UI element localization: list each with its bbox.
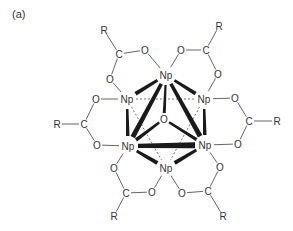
atom-l-o2: O: [93, 140, 101, 151]
atom-np-ul: Np: [121, 94, 134, 105]
atom-np-lr: Np: [199, 140, 212, 151]
thick-bond: [163, 85, 167, 113]
thick-bond: [131, 83, 163, 138]
atom-tr-o1: O: [177, 45, 185, 56]
atom-np-ur: Np: [198, 94, 211, 105]
single-bond: [208, 54, 216, 69]
thick-bond: [138, 142, 195, 148]
atom-bl-o2: O: [148, 187, 156, 198]
atom-br-o2: O: [178, 188, 186, 199]
single-bond: [211, 195, 221, 211]
single-bond: [112, 59, 118, 75]
single-bond: [148, 54, 160, 68]
atom-bl-r: R: [110, 211, 117, 222]
single-bond: [213, 98, 230, 99]
single-bond: [102, 145, 119, 146]
atom-r-o2: O: [234, 139, 242, 150]
atom-tl-c: C: [115, 49, 122, 60]
single-bond: [171, 54, 179, 67]
thick-bond: [203, 109, 207, 135]
atom-np-bot: Np: [160, 163, 173, 174]
single-bond: [214, 144, 233, 145]
single-bond: [240, 126, 247, 140]
atom-tl-o1: O: [141, 45, 149, 56]
single-bond: [86, 104, 94, 120]
panel-label: (a): [12, 8, 25, 20]
atom-l-o1: O: [92, 94, 100, 105]
single-bond: [107, 34, 117, 50]
atom-r-c: C: [245, 116, 252, 127]
neptunium-cluster-diagram: (a) NpNpNpNpNpNpORCOORCOORCOORCOORCOORCO…: [0, 0, 293, 231]
thick-bond: [126, 109, 130, 136]
atom-bl-o1: O: [110, 163, 118, 174]
single-bond: [210, 171, 218, 186]
single-bond: [113, 83, 121, 92]
atom-tl-r: R: [100, 25, 107, 36]
atom-bl-c: C: [122, 188, 129, 199]
thick-bond: [169, 83, 202, 138]
single-bond: [116, 197, 123, 211]
single-bond: [208, 30, 216, 45]
atom-br-o1: O: [216, 162, 224, 173]
atom-tl-o2: O: [106, 74, 114, 85]
atom-np-top: Np: [160, 70, 173, 81]
atom-tr-r: R: [215, 21, 222, 32]
atom-labels: NpNpNpNpNpNpORCOORCOORCOORCOORCOORCOO: [53, 21, 280, 222]
single-bond: [131, 192, 147, 193]
thick-bond: [174, 149, 197, 165]
atom-br-c: C: [204, 186, 211, 197]
atom-tr-o2: O: [214, 69, 222, 80]
atom-r-r: R: [273, 116, 280, 127]
atom-o-center: O: [160, 114, 168, 125]
thick-bond: [136, 150, 158, 165]
single-bond: [116, 173, 124, 189]
atom-r-o1: O: [231, 93, 239, 104]
atom-np-ll: Np: [122, 141, 135, 152]
atom-tr-c: C: [202, 45, 209, 56]
atom-br-r: R: [219, 211, 226, 222]
atom-l-r: R: [53, 119, 60, 130]
single-bond: [187, 191, 203, 192]
single-bond: [124, 51, 140, 53]
single-bond: [208, 78, 215, 91]
atom-l-c: C: [80, 119, 87, 130]
